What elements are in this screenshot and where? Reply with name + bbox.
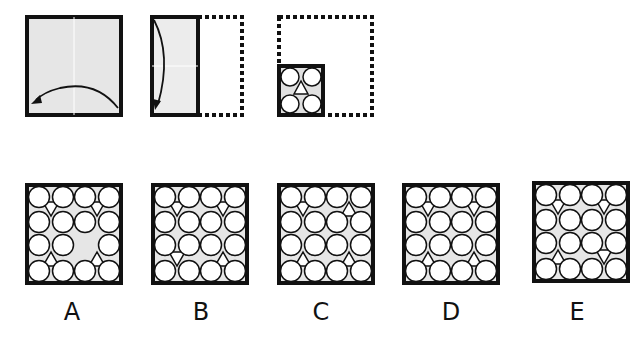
hole-circle [225, 235, 246, 256]
hole-circle [430, 212, 451, 233]
hole-circle [281, 95, 299, 113]
hole-circle [155, 235, 176, 256]
hole-circle [606, 259, 627, 280]
hole-circle [351, 235, 372, 256]
hole-circle [476, 187, 497, 208]
hole-circle [155, 187, 176, 208]
option-label-d[interactable]: D [431, 298, 471, 326]
hole-circle [582, 185, 603, 206]
hole-circle [476, 261, 497, 282]
hole-circle [430, 261, 451, 282]
hole-circle [406, 212, 427, 233]
hole-circle [351, 187, 372, 208]
hole-circle [99, 212, 120, 233]
hole-circle [452, 261, 473, 282]
hole-circle [305, 261, 326, 282]
hole-circle [452, 212, 473, 233]
hole-circle [53, 235, 74, 256]
hole-circle [99, 261, 120, 282]
hole-circle [281, 261, 302, 282]
hole-circle [201, 187, 222, 208]
hole-circle [29, 261, 50, 282]
hole-circle [53, 261, 74, 282]
hole-circle [560, 185, 581, 206]
hole-circle [201, 212, 222, 233]
hole-circle [406, 235, 427, 256]
hole-circle [53, 212, 74, 233]
hole-circle [305, 212, 326, 233]
step-3-punch [279, 17, 372, 115]
option-label-b[interactable]: B [181, 298, 221, 326]
hole-circle [225, 212, 246, 233]
hole-circle [281, 187, 302, 208]
hole-circle [99, 235, 120, 256]
hole-circle [281, 235, 302, 256]
hole-circle [560, 259, 581, 280]
hole-circle [75, 187, 96, 208]
hole-circle [582, 210, 603, 231]
hole-circle [29, 235, 50, 256]
hole-circle [536, 233, 557, 254]
hole-circle [452, 235, 473, 256]
hole-circle [351, 212, 372, 233]
hole-circle [606, 233, 627, 254]
hole-circle [560, 210, 581, 231]
option-label-a[interactable]: A [52, 298, 92, 326]
hole-circle [305, 235, 326, 256]
hole-circle [179, 187, 200, 208]
hole-circle [75, 261, 96, 282]
hole-circle [406, 187, 427, 208]
hole-circle [452, 187, 473, 208]
option-d[interactable] [404, 185, 498, 283]
answer-options [27, 183, 628, 283]
hole-circle [582, 233, 603, 254]
hole-circle [327, 212, 348, 233]
hole-circle [29, 187, 50, 208]
hole-circle [582, 259, 603, 280]
step-1-fold [27, 17, 121, 115]
hole-circle [303, 95, 321, 113]
option-label-e[interactable]: E [557, 298, 597, 326]
hole-circle [303, 68, 321, 86]
hole-circle [225, 261, 246, 282]
hole-circle [201, 261, 222, 282]
step-2-fold [152, 17, 242, 115]
hole-circle [536, 185, 557, 206]
hole-circle [179, 212, 200, 233]
hole-circle [201, 235, 222, 256]
hole-circle [327, 187, 348, 208]
hole-circle [225, 187, 246, 208]
option-label-c[interactable]: C [301, 298, 341, 326]
hole-circle [53, 187, 74, 208]
hole-circle [327, 261, 348, 282]
hole-circle [155, 212, 176, 233]
option-b[interactable] [153, 185, 247, 283]
option-a[interactable] [27, 185, 121, 283]
dotted-outline [198, 17, 242, 115]
hole-circle [406, 261, 427, 282]
option-e[interactable] [534, 183, 628, 281]
hole-circle [155, 261, 176, 282]
hole-circle [281, 68, 299, 86]
hole-circle [327, 235, 348, 256]
hole-circle [281, 212, 302, 233]
hole-circle [179, 235, 200, 256]
hole-circle [430, 187, 451, 208]
hole-circle [536, 259, 557, 280]
hole-circle [29, 212, 50, 233]
hole-circle [179, 261, 200, 282]
hole-circle [430, 235, 451, 256]
hole-circle [606, 185, 627, 206]
hole-circle [606, 210, 627, 231]
hole-circle [476, 212, 497, 233]
puzzle-canvas [0, 0, 636, 338]
option-c[interactable] [279, 185, 373, 283]
hole-circle [560, 233, 581, 254]
hole-circle [351, 261, 372, 282]
hole-circle [476, 235, 497, 256]
hole-circle [536, 210, 557, 231]
hole-circle [305, 187, 326, 208]
hole-circle [99, 187, 120, 208]
hole-circle [75, 212, 96, 233]
